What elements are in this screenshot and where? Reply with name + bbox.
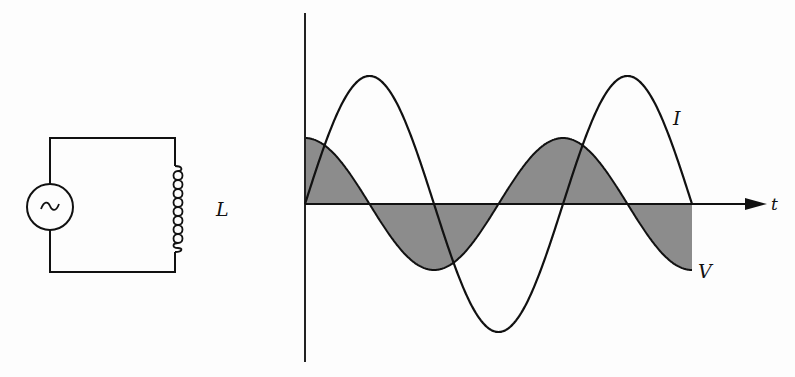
time-axis-arrow-icon [745, 198, 767, 210]
time-axis-label: t [771, 194, 778, 214]
current-label: I [672, 107, 681, 129]
waveform-plot [305, 13, 767, 362]
inductor-coil-icon [174, 166, 183, 252]
voltage-label: V [698, 260, 714, 282]
sine-wave-icon [41, 203, 59, 210]
circuit-wire [50, 138, 175, 272]
inductor-label: L [215, 198, 229, 220]
inductor-ac-figure: L t I V [0, 0, 795, 377]
inductor-circuit [27, 138, 183, 272]
